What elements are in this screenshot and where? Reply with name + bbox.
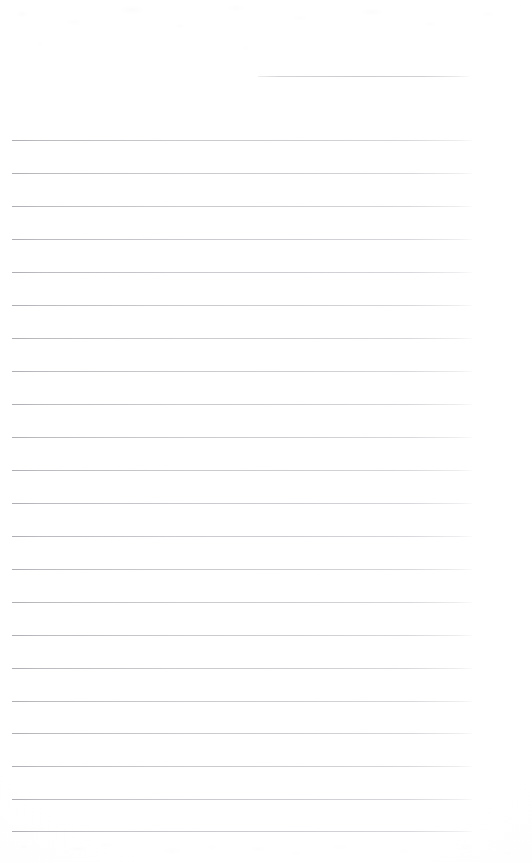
ruled-line <box>12 140 472 141</box>
line-write-slot[interactable] <box>12 575 472 602</box>
ruled-line <box>12 173 472 174</box>
line-write-slot[interactable] <box>12 212 472 239</box>
ruled-line <box>12 272 472 273</box>
notebook-page <box>0 0 532 863</box>
ruled-line <box>12 338 472 339</box>
line-write-slot[interactable] <box>12 772 472 799</box>
ruled-line <box>12 503 472 504</box>
line-write-slot[interactable] <box>12 278 472 305</box>
ruled-line <box>12 602 472 603</box>
line-write-slot[interactable] <box>12 245 472 272</box>
ruled-line <box>12 437 472 438</box>
line-write-slot[interactable] <box>12 146 472 173</box>
line-write-slot[interactable] <box>12 476 472 503</box>
ruled-line <box>12 206 472 207</box>
line-write-slot[interactable] <box>12 509 472 536</box>
line-write-slot[interactable] <box>12 311 472 338</box>
ruled-line <box>12 733 472 734</box>
line-write-slot[interactable] <box>12 706 472 733</box>
ruled-line <box>12 668 472 669</box>
header-write-slot[interactable] <box>258 54 470 76</box>
ruled-line <box>12 470 472 471</box>
ruled-line <box>12 569 472 570</box>
line-write-slot[interactable] <box>12 344 472 371</box>
ruled-line <box>12 239 472 240</box>
ruled-line <box>12 371 472 372</box>
line-write-slot[interactable] <box>12 641 472 668</box>
line-write-slot[interactable] <box>12 674 472 701</box>
ruled-line <box>12 536 472 537</box>
line-write-slot[interactable] <box>12 179 472 206</box>
line-write-slot[interactable] <box>12 542 472 569</box>
line-write-slot[interactable] <box>12 608 472 635</box>
ruled-line <box>12 766 472 767</box>
line-write-slot[interactable] <box>12 410 472 437</box>
line-write-slot[interactable] <box>12 443 472 470</box>
ruled-line <box>12 831 472 832</box>
ruled-line <box>12 404 472 405</box>
header-rule <box>258 76 470 77</box>
line-write-slot[interactable] <box>12 739 472 766</box>
scan-artifact-top <box>0 0 532 60</box>
line-write-slot[interactable] <box>12 113 472 140</box>
ruled-line <box>12 701 472 702</box>
line-write-slot[interactable] <box>12 377 472 404</box>
ruled-line <box>12 305 472 306</box>
ruled-line <box>12 635 472 636</box>
line-write-slot[interactable] <box>12 804 472 831</box>
ruled-line <box>12 799 472 800</box>
